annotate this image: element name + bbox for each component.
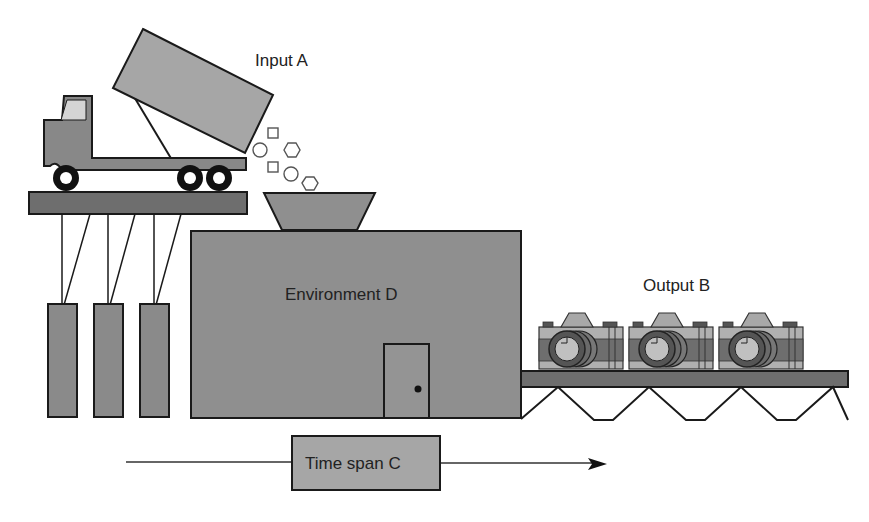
output-cameras — [539, 313, 803, 369]
conveyor-surface — [521, 371, 848, 387]
truck-wheel-rear-1 — [177, 165, 203, 191]
conveyor-truss — [521, 387, 848, 420]
arrowhead-icon — [588, 458, 607, 470]
conveyor-belt — [521, 371, 848, 420]
camera-icon — [629, 313, 713, 369]
process-diagram: Environment D — [0, 0, 869, 522]
input-label: Input A — [255, 51, 309, 70]
time-span-label: Time span C — [305, 454, 401, 473]
weight-block-2 — [94, 304, 123, 417]
input-particles — [253, 128, 318, 190]
truck-wheel-front — [53, 165, 79, 191]
scale-weights — [48, 214, 181, 417]
particle-hexagon — [302, 177, 318, 190]
particle-hexagon — [284, 143, 300, 157]
environment-label: Environment D — [285, 285, 397, 304]
environment-box — [191, 231, 521, 418]
weight-block-3 — [140, 304, 169, 417]
door-knob — [415, 386, 422, 393]
particle-square — [268, 128, 278, 138]
particle-square — [268, 162, 278, 172]
camera-icon — [719, 313, 803, 369]
environment-building: Environment D — [191, 231, 521, 418]
weight-block-1 — [48, 304, 77, 417]
environment-door — [384, 344, 429, 418]
particle-circle — [253, 143, 267, 157]
time-span-arrow: Time span C — [126, 436, 607, 490]
camera-icon — [539, 313, 623, 369]
output-label: Output B — [643, 276, 710, 295]
hopper-funnel — [264, 193, 375, 230]
dump-truck — [44, 29, 273, 191]
truck-platform — [29, 192, 247, 214]
particle-circle — [284, 167, 298, 181]
truck-dump-bed — [113, 29, 273, 153]
truck-wheel-rear-2 — [206, 165, 232, 191]
